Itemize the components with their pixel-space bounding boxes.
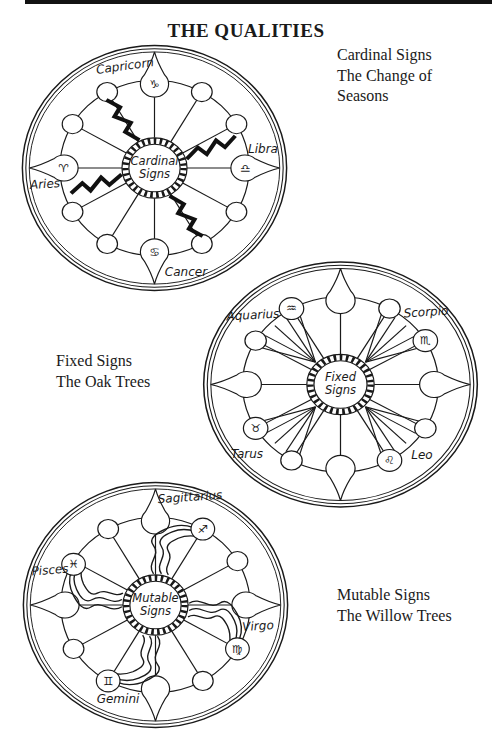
- capricorn-glyph: ♑: [149, 77, 160, 90]
- hub-label-fixed: Fixed Signs: [303, 371, 378, 397]
- hub-line: Signs: [115, 605, 196, 618]
- zodiac-wheels-canvas: ♑ ♎ ♈ ♋ ♒ ♏ ♉: [0, 0, 492, 756]
- hub-line: Signs: [114, 168, 195, 181]
- label-libra: Libra: [240, 142, 286, 156]
- scorpio-glyph: ♏: [420, 334, 431, 347]
- virgo-glyph: ♍: [232, 642, 243, 655]
- label-tarus: Tarus: [222, 447, 272, 461]
- hub-label-mutable: Mutable Signs: [115, 592, 196, 618]
- aries-glyph: ♈: [58, 161, 69, 174]
- leo-glyph: ♌: [384, 454, 395, 467]
- libra-glyph: ♎: [240, 161, 251, 174]
- gemini-glyph: ♊: [103, 674, 114, 687]
- cancer-glyph: ♋: [149, 245, 160, 258]
- hub-label-cardinal: Cardinal Signs: [114, 155, 195, 181]
- book-page: THE QUALITIES Cardinal Signs The Change …: [0, 0, 492, 756]
- taurus-glyph: ♉: [250, 422, 261, 435]
- sagittarius-glyph: ♐: [198, 522, 209, 535]
- label-cancer: Cancer: [158, 265, 214, 279]
- hub-line: Signs: [303, 384, 378, 397]
- aquarius-glyph: ♒: [286, 302, 297, 315]
- label-gemini: Gemini: [92, 692, 144, 706]
- label-leo: Leo: [402, 448, 442, 462]
